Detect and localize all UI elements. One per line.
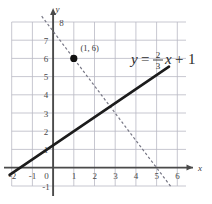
y-tick-label: 5 bbox=[44, 72, 49, 82]
graph-figure: x y -2 -1 0 1 2 3 4 5 6 8 7 6 5 4 3 2 1 … bbox=[0, 0, 212, 204]
y-tick-label: 6 bbox=[44, 54, 49, 64]
data-point-marker bbox=[70, 55, 77, 62]
equation-equals: = bbox=[141, 51, 149, 67]
y-axis-label: y bbox=[55, 4, 60, 14]
x-tick-label: 6 bbox=[175, 171, 180, 181]
y-tick-label: 3 bbox=[44, 109, 49, 119]
x-axis-label: x bbox=[197, 163, 202, 173]
y-tick-label: -1 bbox=[42, 182, 50, 192]
y-tick-label: 2 bbox=[44, 127, 49, 137]
x-tick-label: 0 bbox=[44, 171, 49, 181]
equation-plus: + bbox=[175, 51, 183, 67]
x-tick-label: 5 bbox=[155, 171, 160, 181]
coordinate-plane-svg: x y -2 -1 0 1 2 3 4 5 6 8 7 6 5 4 3 2 1 … bbox=[0, 0, 212, 204]
y-tick-label: 8 bbox=[59, 18, 64, 28]
x-tick-label: -1 bbox=[29, 171, 37, 181]
equation-constant: 1 bbox=[188, 51, 196, 67]
x-tick-label: 4 bbox=[134, 171, 139, 181]
x-tick-label: 2 bbox=[92, 171, 97, 181]
equation-fraction-numerator: 2 bbox=[156, 50, 161, 60]
x-tick-label: 1 bbox=[72, 171, 77, 181]
data-point-label: (1, 6) bbox=[81, 43, 100, 53]
y-tick-label: 4 bbox=[44, 90, 49, 100]
equation-variable: x bbox=[164, 51, 172, 67]
equation-fraction-denominator: 3 bbox=[156, 61, 161, 71]
x-tick-labels: -2 -1 0 1 2 3 4 5 6 bbox=[9, 171, 181, 181]
y-tick-label: 7 bbox=[44, 36, 49, 46]
equation-lhs: y bbox=[129, 51, 138, 67]
x-tick-label: 3 bbox=[113, 171, 118, 181]
